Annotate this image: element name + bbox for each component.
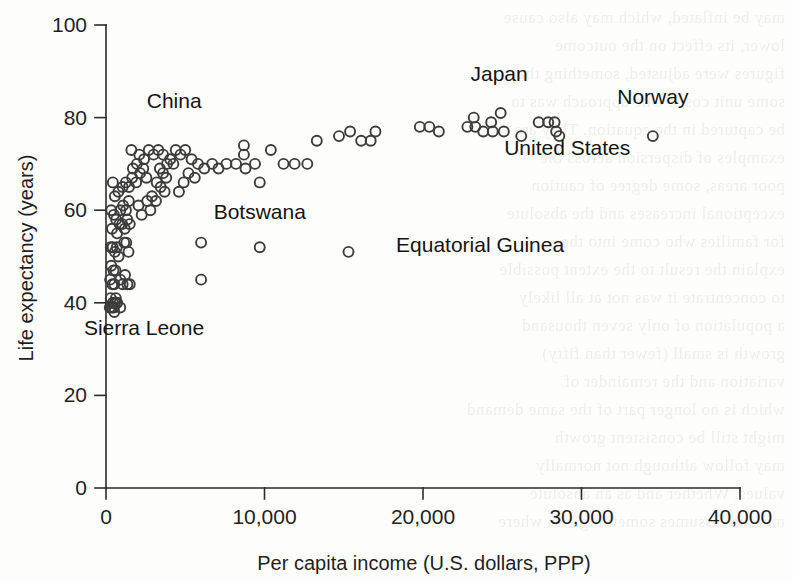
data-point <box>240 164 250 174</box>
data-point <box>255 242 265 252</box>
scatter-chart: 020406080100010,00020,00030,00040,000 Ch… <box>0 0 793 582</box>
y-tick-label: 60 <box>64 198 87 221</box>
point-annotations: ChinaJapanNorwayUnited StatesBotswanaSie… <box>84 62 689 340</box>
data-point <box>496 108 506 118</box>
data-point <box>221 159 231 169</box>
annotation-label: Equatorial Guinea <box>396 233 564 256</box>
data-point <box>290 159 300 169</box>
data-point <box>334 131 344 141</box>
data-point <box>469 113 479 123</box>
y-tick-label: 20 <box>64 383 87 406</box>
data-point <box>196 275 206 285</box>
data-point <box>302 159 312 169</box>
y-tick-label: 40 <box>64 291 87 314</box>
data-point <box>312 136 322 146</box>
data-point <box>345 126 355 136</box>
data-point <box>486 117 496 127</box>
data-point <box>196 238 206 248</box>
x-axis-title: Per capita income (U.S. dollars, PPP) <box>257 552 590 574</box>
data-point <box>648 131 658 141</box>
data-point <box>108 177 118 187</box>
data-point <box>250 159 260 169</box>
y-axis-title: Life expectancy (years) <box>15 155 37 362</box>
y-tick-label: 0 <box>75 476 87 499</box>
data-point <box>434 126 444 136</box>
annotation-label: Botswana <box>214 200 307 223</box>
x-tick-label: 40,000 <box>708 505 772 528</box>
data-point <box>488 126 498 136</box>
x-tick-label: 30,000 <box>549 505 613 528</box>
x-tick-label: 10,000 <box>232 505 296 528</box>
data-point <box>124 247 134 257</box>
annotation-label: China <box>147 89 202 112</box>
data-point <box>344 247 354 257</box>
annotation-label: United States <box>504 136 630 159</box>
figure-page: may be inflated, which may also cause lo… <box>0 0 793 582</box>
data-point <box>266 145 276 155</box>
data-point <box>255 177 265 187</box>
annotation-label: Norway <box>617 85 689 108</box>
data-point <box>133 201 143 211</box>
data-point <box>356 136 366 146</box>
x-tick-label: 20,000 <box>391 505 455 528</box>
data-point <box>534 117 544 127</box>
data-point <box>366 136 376 146</box>
data-point <box>478 126 488 136</box>
data-point <box>424 122 434 132</box>
data-point <box>415 122 425 132</box>
y-tick-label: 80 <box>64 106 87 129</box>
x-tick-label: 0 <box>100 505 112 528</box>
data-point <box>550 117 560 127</box>
annotation-label: Sierra Leone <box>84 316 204 339</box>
y-tick-label: 100 <box>52 13 87 36</box>
data-point <box>126 145 136 155</box>
data-point <box>279 159 289 169</box>
annotation-label: Japan <box>470 62 527 85</box>
data-point <box>174 187 184 197</box>
data-point <box>231 159 241 169</box>
